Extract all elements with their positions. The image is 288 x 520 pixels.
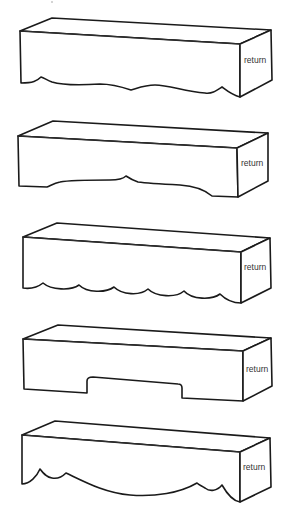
valance-panel-1: return	[20, 18, 272, 97]
return-label: return	[246, 364, 268, 374]
scan-speck	[51, 1, 52, 2]
valance-styles-diagram: return return return return return	[0, 0, 288, 520]
valance-panel-5: return	[22, 421, 271, 502]
return-label: return	[244, 262, 266, 272]
valance-panel-4: return	[23, 325, 272, 401]
return-label: return	[244, 55, 266, 65]
return-label: return	[243, 462, 265, 472]
return-label: return	[241, 158, 263, 168]
valance-panel-2: return	[18, 121, 268, 197]
valance-panel-3: return	[23, 223, 271, 303]
